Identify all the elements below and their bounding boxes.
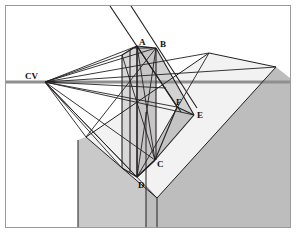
perspective-figure-stage: CV A B C D E F bbox=[0, 0, 296, 233]
label-CV: CV bbox=[25, 71, 38, 81]
label-A: A bbox=[139, 37, 146, 47]
label-F: F bbox=[176, 97, 182, 107]
label-B: B bbox=[160, 39, 166, 49]
perspective-diagram: CV A B C D E F bbox=[0, 0, 296, 233]
label-C: C bbox=[157, 159, 164, 169]
label-E: E bbox=[197, 110, 203, 120]
label-D: D bbox=[138, 180, 145, 190]
